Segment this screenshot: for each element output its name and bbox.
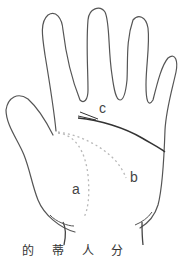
- caption: 的 蒂 人 分: [22, 241, 130, 258]
- wrist-curve-right: [135, 212, 152, 225]
- line-b-dotted: [58, 132, 126, 178]
- hand-diagram: [0, 0, 181, 258]
- line-a-dotted: [58, 133, 89, 217]
- label-a: a: [72, 182, 80, 196]
- line-c: [78, 118, 165, 152]
- label-c: c: [99, 101, 106, 115]
- label-b: b: [130, 170, 138, 184]
